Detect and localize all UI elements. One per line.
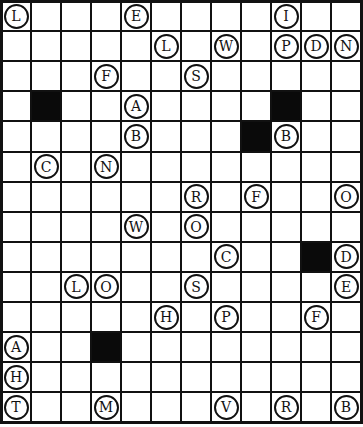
grid-cell[interactable] bbox=[271, 302, 301, 332]
grid-cell[interactable] bbox=[301, 121, 331, 151]
grid-cell[interactable] bbox=[331, 1, 361, 31]
grid-cell[interactable] bbox=[61, 362, 91, 392]
grid-cell[interactable] bbox=[91, 182, 121, 212]
grid-cell[interactable] bbox=[181, 362, 211, 392]
grid-cell[interactable] bbox=[181, 1, 211, 31]
grid-cell[interactable] bbox=[121, 332, 151, 362]
grid-cell[interactable] bbox=[91, 31, 121, 61]
grid-cell[interactable] bbox=[61, 332, 91, 362]
grid-cell[interactable] bbox=[121, 152, 151, 182]
grid-cell[interactable] bbox=[241, 362, 271, 392]
grid-cell[interactable] bbox=[301, 1, 331, 31]
grid-cell[interactable] bbox=[121, 31, 151, 61]
grid-cell[interactable] bbox=[31, 242, 61, 272]
grid-cell[interactable] bbox=[301, 212, 331, 242]
grid-cell[interactable] bbox=[1, 61, 31, 91]
grid-cell[interactable] bbox=[151, 152, 181, 182]
grid-cell[interactable] bbox=[331, 302, 361, 332]
grid-cell[interactable] bbox=[271, 362, 301, 392]
grid-cell[interactable] bbox=[61, 242, 91, 272]
grid-cell[interactable] bbox=[1, 272, 31, 302]
grid-cell[interactable] bbox=[91, 212, 121, 242]
grid-cell[interactable] bbox=[91, 302, 121, 332]
grid-cell[interactable] bbox=[91, 91, 121, 121]
grid-cell[interactable] bbox=[121, 242, 151, 272]
grid-cell[interactable] bbox=[211, 152, 241, 182]
grid-cell[interactable] bbox=[211, 182, 241, 212]
grid-cell[interactable] bbox=[31, 302, 61, 332]
grid-cell[interactable] bbox=[151, 61, 181, 91]
grid-cell[interactable] bbox=[301, 61, 331, 91]
grid-cell[interactable] bbox=[61, 121, 91, 151]
grid-cell[interactable] bbox=[241, 1, 271, 31]
grid-cell[interactable] bbox=[31, 1, 61, 31]
grid-cell[interactable] bbox=[61, 212, 91, 242]
grid-cell[interactable] bbox=[241, 272, 271, 302]
grid-cell[interactable] bbox=[91, 242, 121, 272]
grid-cell[interactable] bbox=[211, 121, 241, 151]
grid-cell[interactable] bbox=[31, 121, 61, 151]
grid-cell[interactable] bbox=[121, 392, 151, 422]
grid-cell[interactable] bbox=[301, 152, 331, 182]
grid-cell[interactable] bbox=[1, 121, 31, 151]
grid-cell[interactable] bbox=[181, 302, 211, 332]
grid-cell[interactable] bbox=[151, 91, 181, 121]
grid-cell[interactable] bbox=[211, 362, 241, 392]
grid-cell[interactable] bbox=[31, 332, 61, 362]
grid-cell[interactable] bbox=[271, 152, 301, 182]
grid-cell[interactable] bbox=[31, 392, 61, 422]
grid-cell[interactable] bbox=[301, 91, 331, 121]
grid-cell[interactable] bbox=[241, 392, 271, 422]
grid-cell[interactable] bbox=[271, 182, 301, 212]
grid-cell[interactable] bbox=[31, 212, 61, 242]
grid-cell[interactable] bbox=[121, 362, 151, 392]
grid-cell[interactable] bbox=[1, 242, 31, 272]
grid-cell[interactable] bbox=[331, 362, 361, 392]
grid-cell[interactable] bbox=[301, 362, 331, 392]
grid-cell[interactable] bbox=[331, 121, 361, 151]
grid-cell[interactable] bbox=[151, 182, 181, 212]
grid-cell[interactable] bbox=[211, 332, 241, 362]
grid-cell[interactable] bbox=[181, 392, 211, 422]
grid-cell[interactable] bbox=[121, 272, 151, 302]
grid-cell[interactable] bbox=[271, 61, 301, 91]
grid-cell[interactable] bbox=[1, 182, 31, 212]
grid-cell[interactable] bbox=[31, 31, 61, 61]
grid-cell[interactable] bbox=[331, 152, 361, 182]
grid-cell[interactable] bbox=[31, 272, 61, 302]
grid-cell[interactable] bbox=[211, 1, 241, 31]
grid-cell[interactable] bbox=[121, 302, 151, 332]
grid-cell[interactable] bbox=[151, 332, 181, 362]
grid-cell[interactable] bbox=[61, 182, 91, 212]
grid-cell[interactable] bbox=[301, 272, 331, 302]
grid-cell[interactable] bbox=[241, 31, 271, 61]
grid-cell[interactable] bbox=[241, 212, 271, 242]
grid-cell[interactable] bbox=[331, 61, 361, 91]
grid-cell[interactable] bbox=[61, 392, 91, 422]
grid-cell[interactable] bbox=[271, 242, 301, 272]
grid-cell[interactable] bbox=[151, 362, 181, 392]
grid-cell[interactable] bbox=[271, 332, 301, 362]
grid-cell[interactable] bbox=[31, 362, 61, 392]
grid-cell[interactable] bbox=[181, 121, 211, 151]
grid-cell[interactable] bbox=[121, 182, 151, 212]
grid-cell[interactable] bbox=[181, 152, 211, 182]
grid-cell[interactable] bbox=[271, 272, 301, 302]
grid-cell[interactable] bbox=[151, 1, 181, 31]
grid-cell[interactable] bbox=[181, 31, 211, 61]
grid-cell[interactable] bbox=[151, 242, 181, 272]
grid-cell[interactable] bbox=[61, 302, 91, 332]
grid-cell[interactable] bbox=[211, 212, 241, 242]
grid-cell[interactable] bbox=[61, 91, 91, 121]
grid-cell[interactable] bbox=[181, 332, 211, 362]
grid-cell[interactable] bbox=[241, 332, 271, 362]
grid-cell[interactable] bbox=[271, 212, 301, 242]
grid-cell[interactable] bbox=[331, 332, 361, 362]
grid-cell[interactable] bbox=[181, 91, 211, 121]
grid-cell[interactable] bbox=[61, 152, 91, 182]
grid-cell[interactable] bbox=[1, 152, 31, 182]
grid-cell[interactable] bbox=[1, 91, 31, 121]
grid-cell[interactable] bbox=[241, 152, 271, 182]
grid-cell[interactable] bbox=[61, 61, 91, 91]
grid-cell[interactable] bbox=[301, 332, 331, 362]
